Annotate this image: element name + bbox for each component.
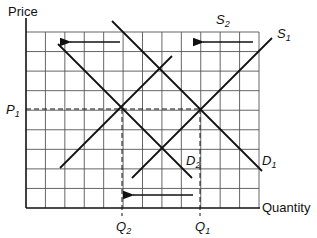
- x-axis-label: Quantity: [262, 200, 311, 215]
- demand-curve-d2: [58, 44, 192, 178]
- y-axis-label: Price: [8, 4, 38, 19]
- s2-label: S2: [216, 12, 230, 29]
- q2-label: Q2: [116, 219, 131, 236]
- q1-label: Q1: [195, 219, 210, 236]
- s1-label: S1: [277, 26, 291, 43]
- supply-curve-s2: [60, 56, 172, 168]
- supply-demand-diagram: Price Quantity S2 S1 D2 D1 P1 Q2 Q1: [0, 0, 317, 238]
- d2-label: D2: [186, 153, 200, 170]
- supply-curve-s1: [132, 38, 272, 178]
- grid: [26, 32, 259, 208]
- p1-label: P1: [6, 102, 20, 119]
- d1-label: D1: [262, 153, 276, 170]
